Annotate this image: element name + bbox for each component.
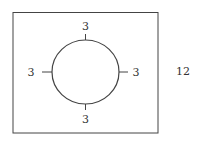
rectangle-side-label: 12 [176, 65, 190, 78]
diagram-canvas: 3 3 3 3 12 [0, 0, 200, 144]
left-gap-label: 3 [28, 66, 35, 79]
right-gap-label: 3 [133, 66, 140, 79]
top-gap-label: 3 [82, 20, 89, 33]
bottom-gap-label: 3 [82, 113, 89, 126]
inner-circle [52, 40, 119, 104]
